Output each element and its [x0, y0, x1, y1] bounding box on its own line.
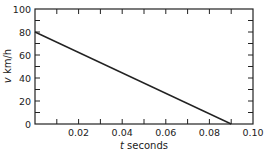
x-tick-label: 0.10	[242, 127, 263, 138]
axis-ticks	[35, 9, 253, 124]
x-tick-label: 0.06	[155, 127, 176, 138]
x-tick-label: 0.02	[68, 127, 89, 138]
y-tick-label: 0	[25, 119, 31, 130]
y-tick-label: 20	[19, 96, 31, 107]
y-tick-label: 80	[19, 27, 31, 38]
y-axis-title: v km/h	[2, 49, 13, 83]
x-tick-label: 0.08	[199, 127, 220, 138]
x-tick-labels: 0.020.040.060.080.10	[68, 127, 264, 138]
plot-frame	[35, 9, 253, 124]
velocity-line	[35, 32, 231, 124]
velocity-time-chart: 0.020.040.060.080.10 020406080100 t seco…	[0, 0, 265, 155]
y-tick-labels: 020406080100	[13, 4, 31, 130]
x-axis-title: t seconds	[120, 140, 168, 151]
y-tick-label: 60	[19, 50, 31, 61]
y-tick-label: 100	[13, 4, 31, 15]
x-tick-label: 0.04	[112, 127, 133, 138]
y-tick-label: 40	[19, 73, 31, 84]
